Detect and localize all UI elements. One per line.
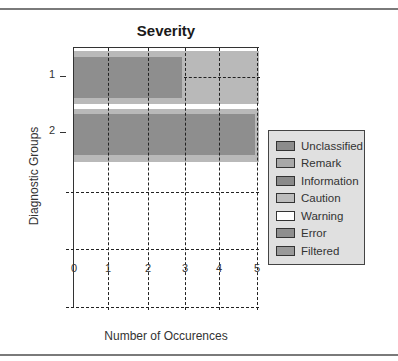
- legend-item-unclassified: Unclassified: [276, 137, 364, 155]
- bottom-border: [0, 354, 398, 356]
- legend-item-warning: Warning: [276, 207, 364, 225]
- legend-label: Error: [301, 227, 327, 239]
- legend-label: Warning: [301, 210, 343, 222]
- legend-item-filtered: Filtered: [276, 242, 364, 260]
- group-1-bar: [74, 57, 182, 98]
- legend-swatch: [276, 141, 295, 151]
- top-border: [0, 8, 398, 10]
- x-axis-label: Number of Occurences: [74, 329, 258, 343]
- y-gridline: [66, 249, 259, 250]
- legend-label: Caution: [301, 192, 341, 204]
- x-tick-4: 4: [209, 262, 229, 274]
- y-axis-label: Diagnostic Groups: [27, 127, 41, 226]
- y-tick-mark: [60, 76, 66, 77]
- legend-swatch: [276, 211, 295, 221]
- x-tick-2: 2: [138, 262, 158, 274]
- legend-swatch: [276, 228, 295, 238]
- legend-label: Information: [301, 175, 359, 187]
- legend-label: Remark: [301, 157, 341, 169]
- x-tick-0: 0: [64, 262, 84, 274]
- x-tick-1: 1: [98, 262, 118, 274]
- y-gridline: [66, 192, 259, 193]
- legend-item-caution: Caution: [276, 190, 364, 208]
- y-tick-1: 1: [49, 68, 55, 80]
- y-tick-mark: [60, 132, 66, 133]
- legend-swatch: [276, 193, 295, 203]
- legend-swatch: [276, 176, 295, 186]
- legend-item-remark: Remark: [276, 155, 364, 173]
- legend: Unclassified Remark Information Caution …: [268, 130, 365, 265]
- y-tick-2: 2: [49, 124, 55, 136]
- x-tick-3: 3: [175, 262, 195, 274]
- legend-swatch: [276, 246, 295, 256]
- legend-label: Filtered: [301, 245, 339, 257]
- x-tick-5: 5: [247, 262, 267, 274]
- y-gridline: [66, 307, 259, 308]
- group-2-bar: [74, 114, 255, 155]
- legend-item-information: Information: [276, 172, 364, 190]
- y-gridline: [184, 77, 260, 78]
- chart-title: Severity: [74, 22, 258, 39]
- legend-label: Unclassified: [301, 140, 363, 152]
- legend-swatch: [276, 158, 295, 168]
- legend-item-error: Error: [276, 225, 364, 243]
